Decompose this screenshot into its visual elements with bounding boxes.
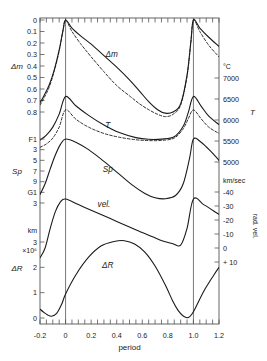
dm-tick-label: 0.2	[27, 39, 37, 48]
x-tick-label: 0	[64, 331, 68, 340]
sp-tick-label: 9	[33, 177, 37, 186]
sp-tick-label: 5	[33, 156, 37, 165]
t-tick-label: 5500	[223, 137, 239, 146]
dm-axis-label: Δm	[10, 62, 23, 71]
x-tick-label: 1.0	[188, 331, 198, 340]
x-tick-label: 1.2	[214, 331, 224, 340]
t-tick-label: 6500	[223, 95, 239, 104]
x-tick-label: -0.2	[34, 331, 46, 340]
chart-svg: -0.200.20.40.60.81.01.2period00.10.20.30…	[0, 0, 267, 361]
dr-axis-unit-km: km	[28, 227, 38, 234]
curve-label-delta-r: ΔR	[101, 261, 113, 270]
dm-tick-label: 0.8	[27, 108, 37, 117]
sp-tick-label: F1	[29, 135, 37, 144]
dr-axis-unit-exp: ×10⁶	[22, 247, 37, 254]
dm-tick-label: 0.1	[27, 27, 37, 36]
dr-tick-label: 3	[33, 238, 37, 247]
curve-R	[40, 241, 219, 318]
vel-tick-label: -30	[223, 202, 233, 211]
dr-tick-label: 0	[33, 314, 37, 323]
dr-axis-label: ΔR	[10, 264, 22, 273]
vel-tick-label: -10	[223, 230, 233, 239]
t-tick-label: 6000	[223, 116, 239, 125]
vel-axis-unit: km/sec	[223, 177, 246, 184]
curve-label-sp: Sp	[103, 165, 113, 174]
x-tick-label: 0.2	[86, 331, 96, 340]
plot-frame	[40, 18, 219, 324]
sp-tick-label: 3	[33, 199, 37, 208]
dr-tick-label: 2	[33, 263, 37, 272]
t-axis-unit: °C	[223, 63, 231, 70]
vel-tick-label: -20	[223, 216, 233, 225]
sp-tick-label: 7	[33, 167, 37, 176]
sp-tick-label: G1	[27, 188, 37, 197]
x-axis-title: period	[118, 343, 140, 352]
t-tick-label: 5000	[223, 158, 239, 167]
t-tick-label: 7000	[223, 74, 239, 83]
curve-msecondary-dashed	[40, 20, 219, 117]
curve-Sp	[40, 138, 219, 199]
dm-tick-label: 0.7	[27, 96, 37, 105]
vel-tick-label: -40	[223, 188, 233, 197]
dm-tick-label: 0.5	[27, 73, 37, 82]
vel-tick-label: 0	[223, 244, 227, 253]
x-tick-label: 0.4	[112, 331, 122, 340]
curve-label-delta-m: Δm	[104, 50, 117, 59]
dm-tick-label: 0.6	[27, 85, 37, 94]
dr-tick-label: 1	[33, 288, 37, 297]
x-tick-label: 0.8	[163, 331, 173, 340]
sp-axis-label: Sp	[12, 167, 22, 176]
cepheid-phase-diagram: -0.200.20.40.60.81.01.2period00.10.20.30…	[0, 0, 267, 361]
curve-label-vel: vel.	[98, 200, 111, 209]
t-axis-label: T	[250, 108, 256, 117]
curve-T	[40, 96, 219, 140]
dm-tick-label: 0.3	[27, 50, 37, 59]
vel-axis-label: rad. vel.	[252, 214, 259, 239]
curve-vel	[40, 198, 219, 258]
sp-tick-label: 3	[33, 145, 37, 154]
x-tick-label: 0.6	[137, 331, 147, 340]
dm-tick-label: 0	[33, 16, 37, 25]
dm-tick-label: 0.4	[27, 62, 37, 71]
vel-tick-label: + 10	[223, 258, 237, 267]
